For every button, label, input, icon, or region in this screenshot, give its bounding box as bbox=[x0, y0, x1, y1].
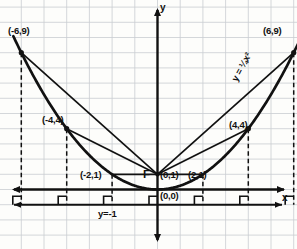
x-axis-label: x bbox=[282, 192, 287, 203]
right-angle-mark bbox=[240, 196, 249, 205]
y-axis-arrow-down bbox=[154, 234, 161, 242]
right-angle-mark bbox=[104, 196, 113, 205]
right-angle-mark bbox=[149, 196, 158, 205]
directrix-arrow-left bbox=[14, 202, 21, 208]
point-label-origin: (0,0) bbox=[160, 190, 179, 201]
directrix-label: y=-1 bbox=[98, 208, 116, 219]
right-angle-marks bbox=[13, 196, 294, 205]
parabola-figure: (-6,9) (6,9) (-4,4) (4,4) (-2,1) (2,1) (… bbox=[0, 0, 297, 249]
point-label-right-6: (6,9) bbox=[263, 25, 282, 36]
point-label-right-2: (2,1) bbox=[188, 169, 207, 180]
right-angle-mark bbox=[194, 196, 203, 205]
point-label-focus: (0,1) bbox=[160, 169, 179, 180]
point-dot bbox=[291, 50, 296, 55]
directrix-arrow-right bbox=[275, 202, 282, 208]
point-label-left-4: (-4,4) bbox=[42, 114, 64, 125]
point-label-left-6: (-6,9) bbox=[8, 25, 30, 36]
x-axis-arrow-left bbox=[12, 186, 20, 193]
right-angle-mark bbox=[58, 196, 67, 205]
point-dot bbox=[64, 126, 69, 131]
point-label-left-2: (-2,1) bbox=[80, 169, 102, 180]
focus-marker-label: F bbox=[143, 168, 150, 180]
point-label-right-4: (4,4) bbox=[229, 119, 248, 130]
point-dot bbox=[19, 50, 24, 55]
parabola-curve bbox=[13, 36, 297, 189]
y-axis-label: y bbox=[160, 2, 165, 13]
